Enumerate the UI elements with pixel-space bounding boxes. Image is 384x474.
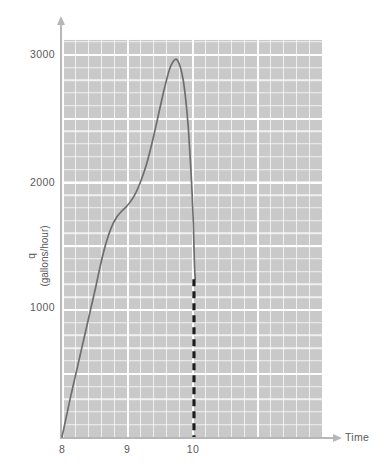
y-tick-label-3000: 3000 — [30, 48, 55, 60]
x-tick-label-9: 9 — [124, 443, 130, 455]
y-axis-line — [60, 24, 62, 439]
y-axis-title-units: (gallons/hour) — [38, 196, 51, 316]
x-tick-label-10: 10 — [187, 443, 199, 455]
x-tick-label-8: 8 — [59, 443, 65, 455]
y-tick-label-2000: 2000 — [30, 176, 55, 188]
chart-figure: 3000 2000 1000 8 9 10 q (gallons/hour) T… — [0, 0, 384, 474]
x-axis-title: Time — [345, 431, 369, 443]
x-axis-arrow-icon — [333, 434, 342, 442]
plot-area-gridded — [62, 38, 322, 437]
y-axis-title: q (gallons/hour) — [25, 196, 51, 316]
y-axis-arrow-icon — [57, 16, 65, 25]
y-axis-title-symbol: q — [25, 196, 38, 316]
x-axis-line — [60, 437, 335, 439]
